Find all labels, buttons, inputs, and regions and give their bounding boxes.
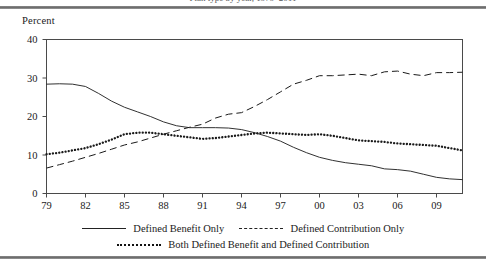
x-tick-label-10: 09	[431, 200, 442, 211]
figure-container: Plan type by year, 1979–2011 Percent 010…	[0, 0, 486, 269]
line-dashed-icon	[239, 223, 283, 233]
x-tick-label-5: 94	[236, 200, 247, 211]
y-tick-label-2: 20	[27, 111, 38, 122]
x-axis-tick-labels: 7982858891949700030609	[41, 200, 442, 211]
line-dotted-icon	[117, 239, 161, 249]
y-tick-label-4: 40	[27, 34, 38, 45]
x-tick-label-7: 00	[314, 200, 325, 211]
line-solid-icon	[82, 223, 126, 233]
legend-label-0: Defined Benefit Only	[133, 223, 224, 234]
legend-row-secondary: Both Defined Benefit and Defined Contrib…	[0, 237, 486, 250]
y-tick-label-3: 30	[27, 73, 38, 84]
x-tick-label-9: 06	[392, 200, 403, 211]
series-line-2	[47, 133, 463, 155]
line-chart-plot: 010203040 7982858891949700030609	[0, 0, 486, 215]
x-tick-label-3: 88	[158, 200, 169, 211]
legend-label-1: Defined Contribution Only	[291, 223, 405, 234]
legend-item-defined-benefit-only[interactable]: Defined Benefit Only	[82, 222, 225, 234]
y-tick-label-1: 10	[27, 150, 38, 161]
legend-item-defined-contribution-only[interactable]: Defined Contribution Only	[239, 222, 404, 234]
legend-label-2: Both Defined Benefit and Defined Contrib…	[168, 239, 369, 250]
series-line-1	[47, 71, 463, 168]
x-tick-label-1: 82	[80, 200, 91, 211]
divider-bottom	[0, 256, 486, 259]
y-axis-tick-labels: 010203040	[27, 34, 38, 199]
data-series-group	[47, 71, 463, 180]
legend-item-both-db-and-dc[interactable]: Both Defined Benefit and Defined Contrib…	[117, 238, 370, 250]
x-tick-label-8: 03	[353, 200, 364, 211]
y-tick-label-0: 0	[32, 188, 37, 199]
series-line-0	[47, 84, 463, 180]
x-tick-label-4: 91	[197, 200, 208, 211]
x-tick-label-2: 85	[119, 200, 130, 211]
legend-row-primary: Defined Benefit Only Defined Contributio…	[0, 221, 486, 234]
x-axis-ticks	[47, 194, 437, 198]
x-tick-label-6: 97	[275, 200, 286, 211]
y-axis-ticks	[43, 40, 47, 194]
axis-frame	[47, 40, 463, 194]
x-tick-label-0: 79	[41, 200, 52, 211]
